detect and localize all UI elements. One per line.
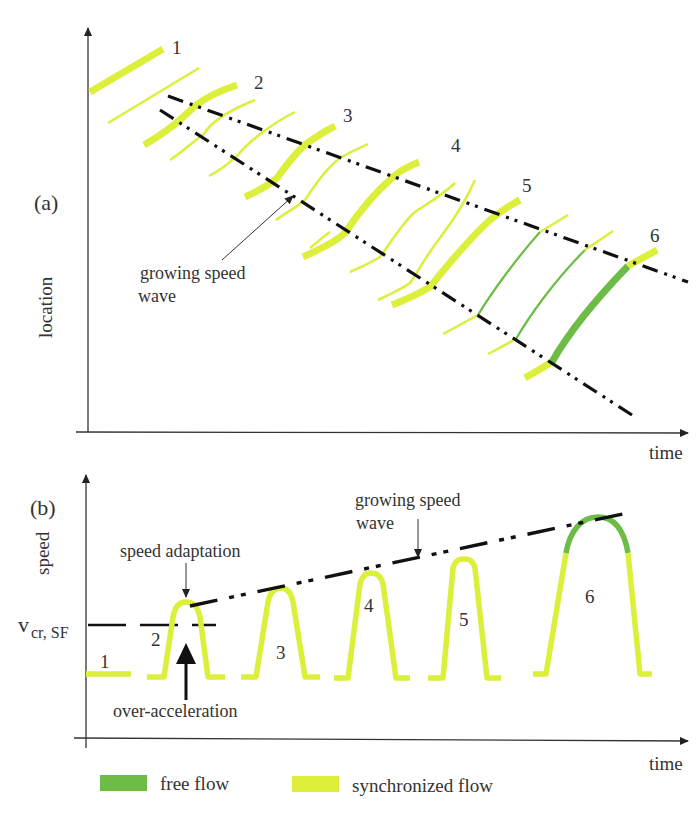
trajectory-thin [488,339,516,354]
annotation-line-2: wave [138,286,176,306]
annotation-arrow [222,196,293,260]
peak-label-4: 4 [364,595,374,616]
trajectory-6-end [628,250,657,266]
panel-b-label: (b) [30,495,56,520]
trajectory-label-5: 5 [522,175,532,196]
legend-label-free-flow: free flow [160,773,229,794]
time-axis-a [76,432,688,433]
trajectory-thin [350,183,455,272]
annotation-line-1: growing speed [140,263,245,283]
time-axis-label-a: time [649,442,683,463]
over-acceleration-label: over-acceleration [113,701,238,721]
critical-speed-symbol: v [18,612,29,637]
time-axis-label-b: time [649,753,683,774]
speed-axis-label: speed [32,531,53,575]
diagram-svg: (a) location time growing speed wave 1 2… [0,0,700,822]
wave-annotation-line-1: growing speed [355,490,460,510]
legend: free flow synchronized flow [100,773,493,796]
trajectory-free-thick [552,266,628,362]
speed-adaptation-label: speed adaptation [120,541,240,561]
critical-speed-subscript: cr, SF [31,624,69,641]
trajectory-free-thin [478,232,540,315]
trajectory-label-4: 4 [451,135,461,156]
peak-label-5: 5 [459,609,469,630]
peak-label-3: 3 [276,642,286,663]
trajectory-label-6: 6 [650,225,660,246]
legend-swatch-free-flow [100,775,147,791]
trajectory-6 [525,362,552,378]
panel-a: (a) location time growing speed wave 1 2… [34,28,688,463]
trajectory-thin [540,215,568,232]
legend-swatch-synchronized-flow [292,776,339,792]
speed-profile-3 [241,588,320,677]
speed-profile-6-free [566,517,628,553]
panel-b: (b) speed time vcr, SF speed adaptation … [18,475,688,774]
speed-profile-6 [533,553,566,674]
panel-a-label: (a) [34,190,58,215]
time-axis-b [74,738,688,741]
trajectory-label-3: 3 [343,105,353,126]
over-acceleration-arrow [176,643,196,700]
peak-label-6: 6 [585,586,595,607]
trajectory-label-1: 1 [172,37,182,58]
trajectory-label-2: 2 [254,72,264,93]
location-axis-label: location [35,276,56,338]
peak-label-2: 2 [151,629,161,650]
critical-speed-label: vcr, SF [18,612,69,641]
legend-label-synchronized-flow: synchronized flow [352,775,493,796]
peak-label-1: 1 [100,651,110,672]
trajectory-1 [90,49,163,92]
trajectory-thin [443,315,478,334]
speed-profile-4 [334,573,410,678]
diagram-canvas: (a) location time growing speed wave 1 2… [0,0,700,822]
trajectory-thin [585,231,613,250]
speed-profile-6-end [628,553,652,674]
trajectory-thin [276,144,368,220]
wave-annotation-line-2: wave [356,513,394,533]
